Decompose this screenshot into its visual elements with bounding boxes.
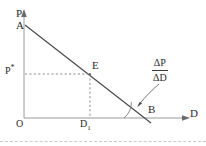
slope-ratio-numerator: ΔP bbox=[152, 58, 168, 70]
quantity-d1-label: D1 bbox=[80, 119, 91, 129]
price-axis-label: P bbox=[16, 8, 22, 19]
slope-ratio-fraction-bar bbox=[152, 70, 168, 71]
slope-ratio-annotation: ΔP ΔD bbox=[152, 58, 168, 83]
point-e-label: E bbox=[92, 60, 99, 71]
slope-annotation-arrowhead bbox=[137, 102, 142, 107]
price-star-superscript: * bbox=[11, 63, 15, 72]
point-a-label: A bbox=[16, 20, 24, 31]
quantity-axis-arrowhead bbox=[182, 115, 190, 121]
origin-label: O bbox=[16, 119, 23, 129]
diagram-canvas: P A P* E B O D1 D ΔP ΔD bbox=[0, 0, 206, 146]
quantity-axis-label: D bbox=[190, 108, 198, 119]
price-star-label: P* bbox=[5, 66, 15, 76]
slope-annotation-leader bbox=[140, 84, 160, 104]
quantity-d1-subscript: 1 bbox=[87, 124, 91, 132]
point-e-marker bbox=[89, 73, 91, 75]
slope-ratio-denominator: ΔD bbox=[152, 72, 168, 84]
bottom-divider bbox=[0, 141, 206, 143]
point-b-label: B bbox=[148, 104, 155, 115]
demand-curve-figure bbox=[0, 0, 206, 146]
